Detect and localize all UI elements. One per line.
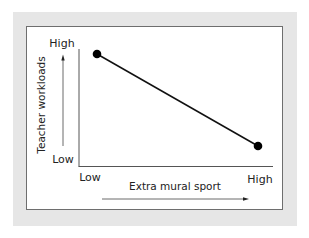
line-chart: High Low Low High Extra mural sport Teac…	[0, 0, 309, 238]
x-direction-arrow	[102, 197, 249, 200]
y-axis-title: Teacher workloads	[35, 56, 47, 154]
y-direction-arrow	[61, 55, 64, 147]
x-tick-high: High	[247, 173, 272, 186]
data-point-low-high	[93, 50, 102, 59]
y-tick-low: Low	[52, 153, 74, 166]
data-point-high-low	[254, 142, 263, 151]
data-line	[97, 54, 258, 146]
y-tick-high: High	[49, 37, 74, 50]
x-axis-title: Extra mural sport	[129, 180, 221, 192]
x-tick-low: Low	[79, 171, 101, 184]
